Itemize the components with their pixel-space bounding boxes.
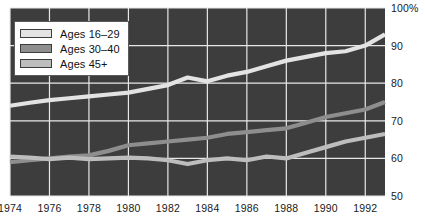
chart-legend: Ages 16–29 Ages 30–40 Ages 45+: [14, 21, 129, 76]
legend-label-ages-45-plus: Ages 45+: [60, 58, 108, 70]
legend-swatch-ages-30-40: [20, 44, 52, 53]
y-axis-tick-label: 100%: [391, 2, 419, 14]
legend-label-ages-30-40: Ages 30–40: [60, 43, 120, 55]
y-axis-tick-label: 60: [391, 152, 403, 164]
legend-swatch-ages-16-29: [20, 29, 52, 38]
x-axis-tick-label: 1982: [156, 202, 180, 214]
legend-swatch-ages-45-plus: [20, 59, 52, 68]
legend-item: Ages 30–40: [20, 41, 120, 56]
x-axis-tick-label: 1974: [0, 202, 22, 214]
y-axis-tick-label: 50: [391, 190, 403, 202]
legend-label-ages-16-29: Ages 16–29: [60, 28, 120, 40]
y-axis-tick-label: 80: [391, 77, 403, 89]
y-axis-tick-label: 70: [391, 115, 403, 127]
x-axis-tick-label: 1976: [37, 202, 61, 214]
legend-item: Ages 45+: [20, 56, 120, 71]
y-axis-tick-label: 90: [391, 40, 403, 52]
legend-item: Ages 16–29: [20, 26, 120, 41]
x-axis-tick-label: 1990: [314, 202, 338, 214]
x-axis-tick-label: 1992: [353, 202, 377, 214]
x-axis-tick-label: 1986: [235, 202, 259, 214]
x-axis-tick-label: 1980: [116, 202, 140, 214]
x-axis-tick-label: 1978: [77, 202, 101, 214]
x-axis-tick-label: 1988: [274, 202, 298, 214]
line-chart: 100%9080706050 1974197619781980198219841…: [0, 0, 425, 222]
x-axis-tick-label: 1984: [195, 202, 219, 214]
